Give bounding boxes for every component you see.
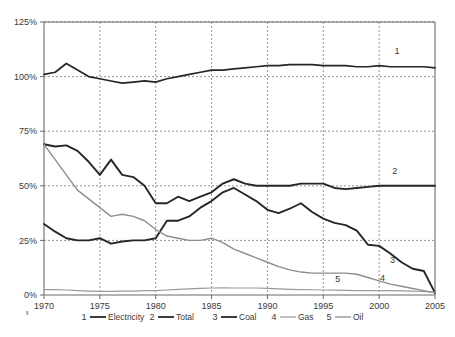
series-line-gas <box>44 288 435 293</box>
x-tick-label: 1975 <box>90 301 110 311</box>
line-chart: 0%25%50%75%100%125% 19701975198019851990… <box>0 0 455 337</box>
legend-number-coal: 3 <box>212 312 217 322</box>
series-line-total <box>44 144 435 203</box>
y-tick-label: 100% <box>14 72 37 82</box>
y-axis-tick-labels: 0%25%50%75%100%125% <box>14 17 44 300</box>
legend-label-electricity: Electricity <box>108 312 145 322</box>
y-tick-label: 50% <box>19 181 37 191</box>
x-tick-label: 1985 <box>202 301 222 311</box>
x-tick-label: 1970 <box>34 301 54 311</box>
x-tick-label: 2005 <box>425 301 445 311</box>
legend-number-oil: 5 <box>326 312 331 322</box>
data-series <box>44 64 435 293</box>
y-tick-label: 0% <box>24 290 37 300</box>
series-tags: 12345 <box>335 46 399 285</box>
legend-label-coal: Coal <box>239 312 257 322</box>
y-tick-label: 125% <box>14 17 37 27</box>
x-tick-label: 1995 <box>313 301 333 311</box>
x-axis-tick-labels: 19701975198019851990199520002005 <box>34 295 445 311</box>
series-line-electricity <box>44 64 435 84</box>
series-tag-coal: 3 <box>390 255 395 265</box>
x-tick-label: 1980 <box>146 301 166 311</box>
legend-label-oil: Oil <box>353 312 364 322</box>
legend-number-gas: 4 <box>271 312 276 322</box>
series-tag-gas: 4 <box>380 273 385 283</box>
legend-label-total: Total <box>176 312 194 322</box>
series-tag-oil: 5 <box>335 274 340 284</box>
legend-number-electricity: 1 <box>81 312 86 322</box>
gridlines <box>44 22 435 295</box>
x-tick-label: 1990 <box>257 301 277 311</box>
legend-label-gas: Gas <box>298 312 314 322</box>
legend: 1Electricity2Total3Coal4Gas5Oil <box>81 312 363 322</box>
axes <box>44 22 435 295</box>
y-tick-label: 75% <box>19 126 37 136</box>
x-tick-label: 2000 <box>369 301 389 311</box>
series-line-oil <box>44 144 435 293</box>
legend-number-total: 2 <box>149 312 154 322</box>
y-tick-label: 25% <box>19 236 37 246</box>
stray-mark <box>26 311 29 315</box>
series-tag-electricity: 1 <box>395 46 400 56</box>
series-tag-total: 2 <box>392 166 397 176</box>
